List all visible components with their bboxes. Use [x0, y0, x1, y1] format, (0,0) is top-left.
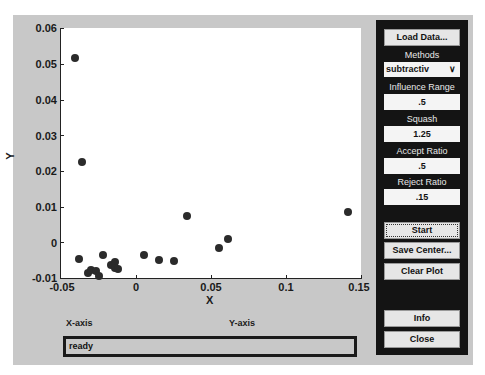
x-axis-line — [60, 278, 362, 279]
data-point — [344, 208, 352, 216]
data-point — [71, 54, 79, 62]
influence-range-label: Influence Range — [376, 82, 468, 93]
methods-select[interactable]: subtractiv ∨ — [384, 62, 460, 77]
data-point — [215, 244, 223, 252]
close-button[interactable]: Close — [384, 331, 460, 348]
x-tick — [136, 275, 137, 278]
data-point — [99, 251, 107, 259]
data-point — [224, 235, 232, 243]
influence-range-input[interactable]: .5 — [384, 94, 460, 110]
y-tick-label: 0.05 — [36, 58, 57, 70]
x-axis-select-label: X-axis — [66, 318, 93, 328]
start-button[interactable]: Start — [384, 222, 460, 239]
x-tick — [286, 275, 287, 278]
y-tick-label: 0.01 — [36, 201, 57, 213]
info-button[interactable]: Info — [384, 310, 460, 327]
data-point — [183, 212, 191, 220]
x-tick-label: -0.05 — [49, 281, 74, 293]
data-point — [140, 251, 148, 259]
save-center-button[interactable]: Save Center... — [384, 242, 460, 259]
y-tick — [61, 171, 64, 172]
x-tick — [361, 275, 362, 278]
data-point — [170, 257, 178, 265]
y-tick-label: 0.02 — [36, 165, 57, 177]
y-axis-title: Y — [4, 152, 16, 159]
data-point — [75, 255, 83, 263]
chevron-down-icon: ∨ — [449, 62, 456, 77]
control-panel: Load Data... Methods subtractiv ∨ Influe… — [376, 20, 468, 355]
y-tick — [61, 207, 64, 208]
reject-ratio-label: Reject Ratio — [376, 177, 468, 188]
data-point — [95, 272, 103, 280]
y-tick — [61, 28, 64, 29]
x-tick — [211, 275, 212, 278]
methods-label: Methods — [376, 50, 468, 61]
y-tick — [61, 242, 64, 243]
y-tick — [61, 100, 64, 101]
data-point — [155, 256, 163, 264]
accept-ratio-input[interactable]: .5 — [384, 158, 460, 174]
accept-ratio-label: Accept Ratio — [376, 146, 468, 157]
x-tick-label: 0.15 — [348, 281, 369, 293]
plot-axes[interactable] — [61, 28, 361, 278]
y-tick-label: 0.04 — [36, 94, 57, 106]
reject-ratio-input[interactable]: .15 — [384, 189, 460, 205]
y-axis-select-label: Y-axis — [229, 318, 255, 328]
y-tick-label: 0 — [51, 237, 57, 249]
data-point — [78, 158, 86, 166]
y-tick-label: 0.03 — [36, 130, 57, 142]
x-tick-label: 0 — [133, 281, 139, 293]
squash-input[interactable]: 1.25 — [384, 126, 460, 142]
load-data-button[interactable]: Load Data... — [384, 29, 460, 46]
status-text: ready — [69, 341, 93, 351]
x-tick-label: 0.1 — [278, 281, 293, 293]
x-tick-label: 0.05 — [200, 281, 221, 293]
y-tick — [61, 64, 64, 65]
x-axis-title: X — [206, 294, 213, 306]
y-tick-label: 0.06 — [36, 22, 57, 34]
data-point — [114, 265, 122, 273]
methods-value: subtractiv — [386, 64, 429, 74]
status-box: ready — [63, 336, 357, 357]
clear-plot-button[interactable]: Clear Plot — [384, 263, 460, 280]
squash-label: Squash — [376, 114, 468, 125]
y-tick — [61, 135, 64, 136]
